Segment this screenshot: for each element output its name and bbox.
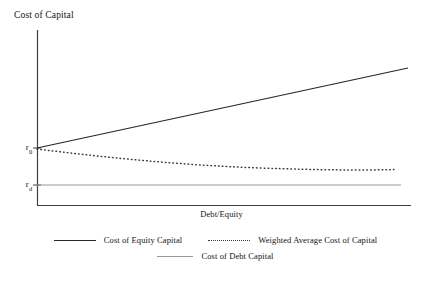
legend-label-weighted-average-cost-of-capital: Weighted Average Cost of Capital — [258, 235, 377, 245]
legend-swatch-solid-line-icon — [54, 236, 96, 244]
legend-row-secondary: Cost of Debt Capital — [0, 248, 431, 264]
series-line-cost-of-equity-capital — [37, 68, 408, 148]
legend-row-primary: Cost of Equity Capital Weighted Average … — [0, 232, 431, 248]
legend-label-cost-of-equity-capital: Cost of Equity Capital — [104, 235, 182, 245]
legend-entry-cost-of-debt-capital: Cost of Debt Capital — [157, 251, 273, 261]
legend-swatch-dotted-line-icon — [208, 236, 250, 244]
legend-swatch-light-line-icon — [157, 252, 193, 260]
cost-of-capital-chart: Cost of Capital r0 rd Debt/Equity Cost o… — [0, 0, 431, 281]
legend-entry-cost-of-equity-capital: Cost of Equity Capital — [54, 235, 182, 245]
series-lines — [37, 68, 408, 185]
legend-label-cost-of-debt-capital: Cost of Debt Capital — [201, 251, 273, 261]
x-axis-label: Debt/Equity — [0, 209, 431, 219]
legend-entry-weighted-average-cost-of-capital: Weighted Average Cost of Capital — [208, 235, 377, 245]
series-line-weighted-average-cost-of-capital — [37, 149, 396, 170]
chart-legend: Cost of Equity Capital Weighted Average … — [0, 232, 431, 264]
axes — [33, 30, 411, 206]
